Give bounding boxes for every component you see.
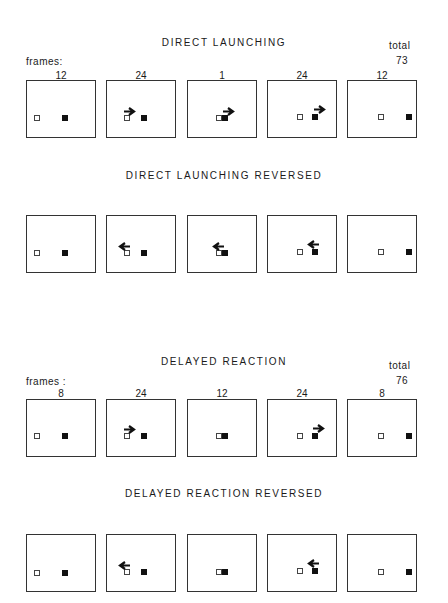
filled-square-object — [62, 115, 68, 121]
filled-square-object — [406, 433, 412, 439]
open-square-object — [34, 115, 40, 121]
animation-frame-panel — [26, 534, 96, 592]
animation-frame-panel — [26, 80, 96, 138]
animation-frame-panel — [106, 215, 176, 273]
animation-frame-panel — [187, 215, 257, 273]
total-label: total — [389, 40, 410, 51]
frame-count: 8 — [346, 388, 418, 399]
animation-frame-panel — [26, 399, 96, 457]
animation-frame-panel — [187, 534, 257, 592]
filled-square-object — [141, 250, 147, 256]
total-label: total — [389, 360, 410, 371]
animation-frame-panel — [267, 215, 337, 273]
open-square-object — [297, 249, 303, 255]
animation-frame-panel — [267, 399, 337, 457]
open-square-object — [378, 249, 384, 255]
animation-frame-panel — [106, 534, 176, 592]
filled-square-object — [141, 433, 147, 439]
open-square-object — [34, 433, 40, 439]
arrow-right-icon — [313, 100, 326, 109]
frames-label: frames : — [26, 376, 66, 387]
animation-frame-panel — [106, 80, 176, 138]
frame-count: 12 — [186, 388, 258, 399]
open-square-object — [378, 569, 384, 575]
arrow-left-icon — [307, 554, 320, 563]
arrow-right-icon — [312, 419, 325, 428]
animation-frame-panel — [187, 80, 257, 138]
arrow-right-icon — [222, 102, 235, 111]
filled-square-object — [141, 115, 147, 121]
animation-frame-panel — [106, 399, 176, 457]
arrow-right-icon — [123, 420, 136, 429]
filled-square-object — [406, 569, 412, 575]
section-title: DELAYED REACTION REVERSED — [0, 488, 448, 499]
total-value: 73 — [396, 55, 408, 66]
open-square-object — [297, 114, 303, 120]
arrow-right-icon — [123, 102, 136, 111]
animation-frame-panel — [267, 80, 337, 138]
filled-square-object — [62, 433, 68, 439]
filled-square-object — [222, 569, 228, 575]
filled-square-object — [222, 433, 228, 439]
filled-square-object — [62, 250, 68, 256]
filled-square-object — [62, 570, 68, 576]
animation-frame-panel — [347, 215, 417, 273]
arrow-left-icon — [212, 237, 225, 246]
frame-count: 24 — [266, 388, 338, 399]
filled-square-object — [141, 569, 147, 575]
section-title: DIRECT LAUNCHING — [0, 37, 448, 48]
arrow-left-icon — [118, 237, 131, 246]
filled-square-object — [312, 114, 318, 120]
frame-count: 24 — [105, 388, 177, 399]
frames-label: frames: — [26, 56, 63, 67]
filled-square-object — [312, 433, 318, 439]
filled-square-object — [406, 249, 412, 255]
open-square-object — [34, 250, 40, 256]
open-square-object — [297, 568, 303, 574]
arrow-left-icon — [118, 556, 131, 565]
section-title: DIRECT LAUNCHING REVERSED — [0, 170, 448, 181]
section-title: DELAYED REACTION — [0, 356, 448, 367]
animation-frame-panel — [267, 534, 337, 592]
animation-frame-panel — [26, 215, 96, 273]
animation-frame-panel — [347, 534, 417, 592]
frame-count: 8 — [25, 388, 97, 399]
open-square-object — [297, 433, 303, 439]
filled-square-object — [406, 114, 412, 120]
open-square-object — [378, 114, 384, 120]
open-square-object — [34, 570, 40, 576]
open-square-object — [378, 433, 384, 439]
animation-frame-panel — [347, 80, 417, 138]
animation-frame-panel — [187, 399, 257, 457]
filled-square-object — [312, 249, 318, 255]
total-value: 76 — [396, 375, 408, 386]
arrow-left-icon — [307, 235, 320, 244]
filled-square-object — [312, 568, 318, 574]
animation-frame-panel — [347, 399, 417, 457]
